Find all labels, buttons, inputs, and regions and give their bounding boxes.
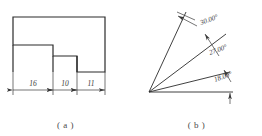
figure-b-caption: ( b )	[131, 120, 262, 130]
stepped-profile-outline	[13, 17, 105, 72]
dimension-label-right: 11	[88, 79, 95, 88]
figure-b-drawing: 30.00° 27.00° 18.00°	[131, 0, 262, 120]
figure-a-drawing: 16 10 11	[0, 0, 131, 120]
figure-b: 30.00° 27.00° 18.00° ( b )	[131, 0, 262, 136]
ray-30-deg	[149, 12, 186, 92]
figure-a: 16 10 11 ( a )	[0, 0, 131, 136]
figure-a-caption: ( a )	[0, 120, 131, 130]
angle-label-30: 30.00°	[198, 13, 219, 27]
angle-label-18: 18.00°	[213, 70, 233, 84]
leader-line-30	[178, 16, 197, 26]
dimension-label-middle: 10	[61, 79, 69, 88]
angle-tick-mark	[177, 12, 195, 20]
technical-drawing-figure-pair: 16 10 11 ( a ) 30.00°	[0, 0, 262, 136]
dimension-label-left: 16	[29, 79, 37, 88]
